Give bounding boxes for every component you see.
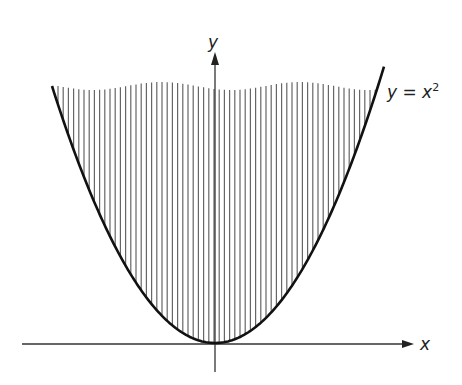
y-axis-label: y — [207, 32, 219, 52]
parabola-diagram: y x y = x2 — [0, 0, 462, 385]
x-axis-arrow-icon — [402, 340, 414, 348]
x-axis-label: x — [419, 334, 431, 354]
hatching-region — [58, 82, 375, 344]
equation-label: y = x2 — [386, 81, 439, 102]
y-axis-arrow-icon — [211, 52, 219, 65]
